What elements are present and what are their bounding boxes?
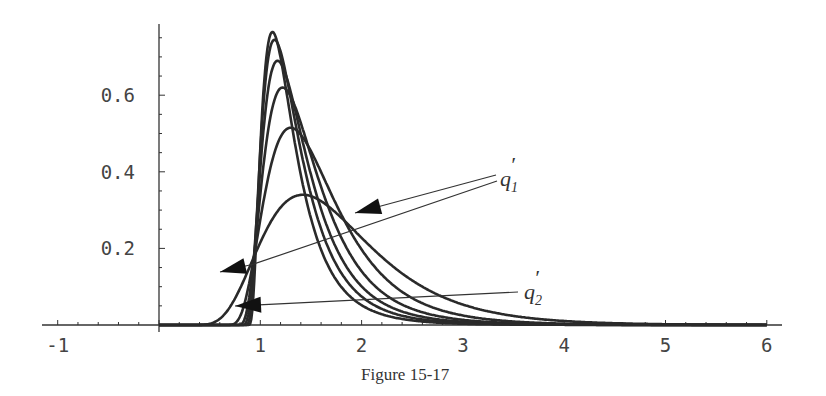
x-tick-label: 2 <box>356 334 367 356</box>
x-tick-label: 3 <box>457 334 468 356</box>
y-tick-label: 0.4 <box>101 161 135 183</box>
axes: -11234560.20.40.6 <box>42 24 782 356</box>
x-tick-label: 1 <box>255 334 266 356</box>
arrowhead-icon <box>355 199 382 214</box>
x-tick-label: -1 <box>46 334 69 356</box>
arrowhead-icon <box>220 258 247 274</box>
x-tick-label: 6 <box>761 334 772 356</box>
curves <box>159 32 767 325</box>
x-tick-label: 5 <box>660 334 671 356</box>
y-tick-label: 0.6 <box>101 84 135 106</box>
figure-caption: Figure 15-17 <box>361 365 450 384</box>
q1-label: q1′ <box>500 152 518 195</box>
q2-arrow-leader <box>235 292 518 306</box>
y-tick-label: 0.2 <box>101 237 135 259</box>
density-chart: -11234560.20.40.6 q1′ q2′ Figure 15-17 <box>0 0 826 396</box>
x-tick-label: 4 <box>558 334 569 356</box>
q2-label: q2′ <box>524 265 542 308</box>
